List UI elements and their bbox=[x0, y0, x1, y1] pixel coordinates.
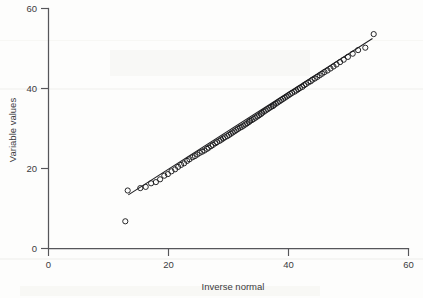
y-tick-label-60: 60 bbox=[26, 3, 37, 14]
data-points-group bbox=[123, 31, 377, 223]
data-point bbox=[125, 188, 130, 193]
data-point bbox=[123, 219, 128, 224]
x-tick-label-60: 60 bbox=[403, 259, 414, 270]
data-point bbox=[371, 31, 376, 36]
x-axis-title: Inverse normal bbox=[202, 281, 265, 292]
y-axis: 60 40 20 0 Variable values bbox=[7, 3, 49, 254]
figure-canvas: 60 40 20 0 Variable values 0 20 40 60 In… bbox=[0, 0, 423, 298]
y-tick-label-40: 40 bbox=[26, 83, 37, 94]
data-point bbox=[143, 184, 148, 189]
data-point bbox=[345, 54, 350, 59]
x-tick-label-20: 20 bbox=[163, 259, 174, 270]
y-tick-label-20: 20 bbox=[26, 163, 37, 174]
x-tick-label-0: 0 bbox=[46, 259, 51, 270]
y-axis-title: Variable values bbox=[7, 98, 18, 163]
data-point bbox=[350, 51, 355, 56]
qq-plot: 60 40 20 0 Variable values 0 20 40 60 In… bbox=[0, 0, 423, 298]
y-tick-label-0: 0 bbox=[32, 243, 37, 254]
x-tick-label-40: 40 bbox=[283, 259, 294, 270]
x-axis: 0 20 40 60 Inverse normal bbox=[46, 249, 414, 293]
data-point bbox=[363, 45, 368, 50]
